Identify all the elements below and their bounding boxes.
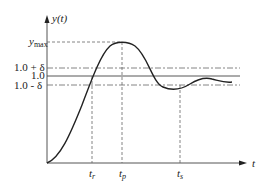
y-axis-label: y(t): [51, 12, 68, 25]
x-axis-arrow-icon: [239, 161, 247, 166]
tr-label: tr: [89, 167, 96, 181]
x-axis-label: t: [252, 157, 256, 169]
ymax-label: ymax: [28, 35, 48, 49]
ts-label: ts: [177, 167, 183, 181]
step-response-diagram: y(t) ymax 1.0 + δ 1.0 1.0 - δ tr tp ts t: [0, 0, 269, 185]
response-curve: [47, 42, 232, 163]
y-axis-arrow-icon: [45, 15, 50, 23]
lower-band-label: 1.0 - δ: [14, 79, 42, 91]
tp-label: tp: [119, 167, 126, 181]
